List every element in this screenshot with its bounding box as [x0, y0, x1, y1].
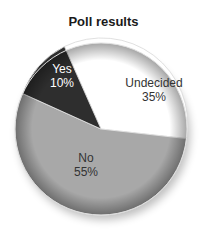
- label-undecided-pct: 35%: [114, 90, 194, 104]
- label-yes-pct: 10%: [40, 76, 84, 90]
- label-undecided-name: Undecided: [114, 76, 194, 90]
- label-undecided: Undecided 35%: [114, 76, 194, 104]
- label-no-name: No: [64, 151, 108, 165]
- label-yes: Yes 10%: [40, 62, 84, 90]
- label-yes-name: Yes: [40, 62, 84, 76]
- label-no-pct: 55%: [64, 165, 108, 179]
- label-no: No 55%: [64, 151, 108, 179]
- pie-chart: [0, 0, 207, 241]
